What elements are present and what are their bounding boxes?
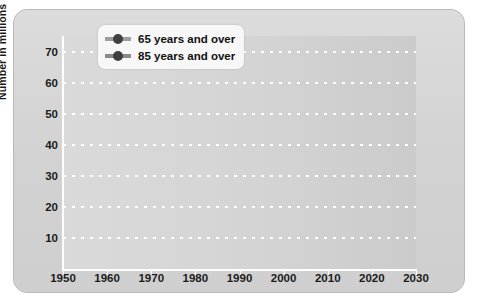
legend-label: 65 years and over — [138, 33, 235, 45]
gridline — [63, 175, 416, 177]
x-tick-label: 2030 — [403, 272, 429, 284]
x-tick-label: 2010 — [315, 272, 341, 284]
chart-legend: 65 years and over 85 years and over — [98, 25, 244, 69]
plot-background — [63, 36, 416, 269]
legend-item-85-years-and-over[interactable]: 85 years and over — [105, 47, 235, 64]
y-tick-label: 30 — [45, 170, 58, 182]
x-tick-label: 2020 — [359, 272, 385, 284]
y-axis-title: Number in millions — [0, 0, 8, 100]
legend-label: 85 years and over — [138, 50, 235, 62]
gridline — [63, 206, 416, 208]
y-tick-label: 40 — [45, 139, 58, 151]
y-tick-label: 10 — [45, 232, 58, 244]
x-tick-label: 2000 — [271, 272, 297, 284]
legend-marker-icon — [105, 49, 131, 62]
plot-area — [63, 36, 416, 269]
gridline — [63, 82, 416, 84]
chart-figure: Number in millions 10203040506070 195019… — [0, 0, 480, 302]
y-tick-label: 50 — [45, 108, 58, 120]
x-tick-label: 1950 — [50, 272, 76, 284]
y-tick-label: 20 — [45, 201, 58, 213]
y-axis-line — [62, 36, 64, 269]
legend-item-65-years-and-over[interactable]: 65 years and over — [105, 30, 235, 47]
gridline — [63, 237, 416, 239]
y-tick-label: 70 — [45, 46, 58, 58]
y-tick-label: 60 — [45, 77, 58, 89]
x-tick-label: 1990 — [227, 272, 253, 284]
y-axis-ticks: 10203040506070 — [22, 36, 58, 269]
legend-marker-icon — [105, 32, 131, 45]
gridline — [63, 113, 416, 115]
x-tick-label: 1960 — [94, 272, 120, 284]
gridline — [63, 144, 416, 146]
x-axis-ticks: 195019601970198019902000201020202030 — [63, 272, 416, 288]
x-tick-label: 1970 — [138, 272, 164, 284]
x-tick-label: 1980 — [183, 272, 209, 284]
